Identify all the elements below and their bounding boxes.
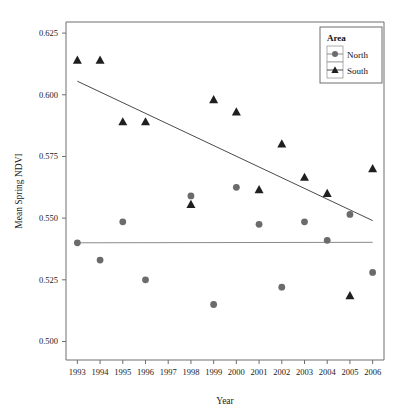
y-tick-label: 0.550 — [39, 213, 58, 223]
data-point-north — [233, 184, 240, 191]
series-north-markers — [74, 184, 376, 308]
data-point-south — [96, 55, 105, 63]
x-tick-label: 2001 — [251, 367, 268, 377]
data-point-south — [73, 55, 82, 63]
trendline-south — [77, 81, 372, 220]
circle-marker-icon — [332, 51, 338, 57]
x-tick-label: 1997 — [160, 367, 177, 377]
legend[interactable]: Area North South — [320, 27, 382, 83]
data-point-south — [300, 173, 309, 181]
legend-title: Area — [327, 33, 346, 43]
data-point-north — [188, 193, 195, 200]
series-south-markers — [73, 55, 377, 299]
data-point-south — [141, 117, 150, 125]
x-tick-label: 2002 — [273, 367, 290, 377]
x-tick-label: 1996 — [137, 367, 154, 377]
x-tick-label: 2005 — [341, 367, 358, 377]
x-tick-label: 1995 — [114, 367, 131, 377]
data-point-south — [186, 200, 195, 208]
data-point-north — [119, 218, 126, 225]
y-tick-label: 0.600 — [39, 90, 58, 100]
data-point-south — [368, 164, 377, 172]
chart-figure: 0.5000.5250.5500.5750.6000.625 199319941… — [0, 0, 406, 417]
x-tick-label: 1993 — [69, 367, 86, 377]
data-point-south — [345, 291, 354, 299]
data-point-north — [97, 257, 104, 264]
x-tick-label: 1998 — [182, 367, 199, 377]
x-tick-label: 2004 — [319, 367, 337, 377]
data-point-north — [278, 284, 285, 291]
scatter-plot-svg: 0.5000.5250.5500.5750.6000.625 199319941… — [0, 0, 406, 417]
data-point-north — [301, 218, 308, 225]
data-point-north — [347, 211, 354, 218]
data-point-south — [232, 107, 241, 115]
x-tick-label: 2003 — [296, 367, 313, 377]
data-point-south — [323, 189, 332, 197]
data-point-north — [324, 237, 331, 244]
x-tick-label: 2000 — [228, 367, 245, 377]
data-point-north — [256, 221, 263, 228]
x-tick-label: 1999 — [205, 367, 222, 377]
y-axis-title: Mean Spring NDVI — [14, 153, 24, 228]
y-axis-ticks: 0.5000.5250.5500.5750.6000.625 — [39, 28, 66, 346]
trendlines-group — [77, 81, 372, 243]
legend-label-south[interactable]: South — [347, 66, 369, 76]
data-point-north — [210, 301, 217, 308]
y-tick-label: 0.575 — [39, 151, 58, 161]
data-point-north — [369, 269, 376, 276]
data-point-north — [142, 276, 149, 283]
y-tick-label: 0.625 — [39, 28, 58, 38]
x-tick-label: 2006 — [364, 367, 381, 377]
x-axis-ticks: 1993199419951996199719981999200020012002… — [69, 360, 381, 377]
data-point-south — [277, 139, 286, 147]
legend-label-north[interactable]: North — [347, 50, 368, 60]
x-tick-label: 1994 — [92, 367, 110, 377]
data-point-south — [255, 185, 264, 193]
data-point-south — [118, 117, 127, 125]
y-tick-label: 0.500 — [39, 336, 58, 346]
data-point-north — [74, 239, 81, 246]
y-tick-label: 0.525 — [39, 275, 58, 285]
data-point-south — [209, 95, 218, 103]
x-axis-title: Year — [216, 396, 234, 406]
